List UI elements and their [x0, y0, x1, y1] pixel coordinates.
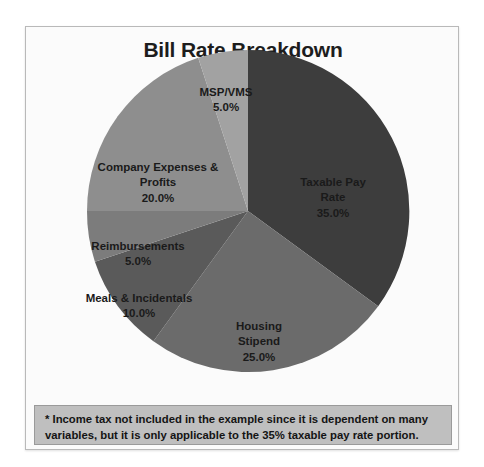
chart-card: Bill Rate Breakdown	[25, 26, 459, 450]
footnote-note: * Income tax not included in the example…	[34, 405, 452, 445]
pie-chart-svg	[69, 45, 419, 375]
pie-chart	[69, 45, 419, 375]
pie-slices	[87, 50, 409, 372]
slide-page: Bill Rate Breakdown	[0, 0, 484, 467]
